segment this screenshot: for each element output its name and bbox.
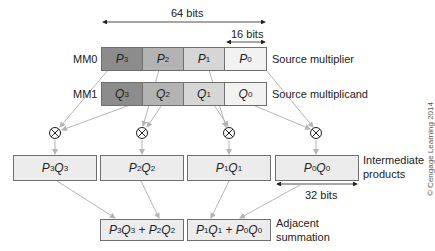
sum-box-low: P1Q1 + P0Q0: [187, 219, 271, 241]
register-cell-p3: P3: [101, 47, 143, 71]
product-box-p0q0: P0Q0: [275, 155, 359, 181]
intermediate-label-line1: Intermediate: [363, 154, 424, 166]
register-cell-p2: P2: [142, 47, 184, 71]
label-16-bits: 16 bits: [231, 28, 263, 40]
intermediate-label-line2: products: [363, 168, 405, 180]
product-box-p1q1: P1Q1: [187, 155, 271, 181]
summation-label-line2: summation: [276, 231, 330, 243]
copyright-notice: © Cengage Learning 2014: [426, 102, 435, 196]
register-cell-q0: Q0: [224, 82, 267, 106]
register-cell-p0: P0: [224, 47, 267, 71]
summation-label-line1: Adjacent: [276, 217, 319, 229]
register-cell-q1: Q1: [183, 82, 225, 106]
sum-box-high: P3Q3 + P2Q2: [100, 219, 184, 241]
multiply-icon: [224, 128, 235, 139]
multiply-icon: [50, 128, 61, 139]
register-cell-q3: Q3: [101, 82, 143, 106]
label-32-bits: 32 bits: [305, 189, 337, 201]
label-64-bits: 64 bits: [171, 7, 203, 19]
multiply-icon: [137, 128, 148, 139]
multiply-icons: [50, 128, 322, 139]
register-name-mm1: MM1: [73, 88, 97, 100]
multiply-icon: [311, 128, 322, 139]
diagram-connectors: [0, 0, 435, 251]
product-box-p3q3: P3Q3: [13, 155, 97, 181]
register-cell-q2: Q2: [142, 82, 184, 106]
product-box-p2q2: P2Q2: [100, 155, 184, 181]
register-desc-mm1: Source multiplicand: [272, 88, 368, 100]
register-cell-p1: P1: [183, 47, 225, 71]
register-desc-mm0: Source multiplier: [272, 53, 354, 65]
register-name-mm0: MM0: [73, 53, 97, 65]
